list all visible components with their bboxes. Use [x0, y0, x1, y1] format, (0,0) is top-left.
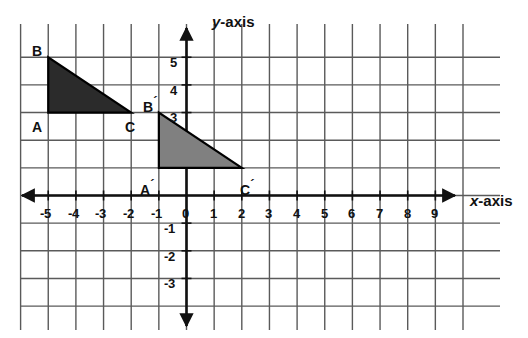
y-axis-tick-label: -3	[164, 277, 175, 290]
y-axis-label-suffix: -axis	[220, 13, 254, 30]
x-axis-tick-label: 0	[182, 207, 189, 220]
vertex-label-b: B	[32, 44, 42, 58]
x-axis-tick-label: 3	[265, 207, 272, 220]
vertex-label-c-prime-text: C	[240, 182, 250, 198]
x-axis-tick-label: 1	[210, 207, 217, 220]
x-axis-tick-label: 2	[238, 207, 245, 220]
vertex-label-a-prime-prime-mark: ´	[150, 177, 154, 192]
coordinate-plane-figure: -5-4-3-2-10123456789543-1-2-3 BACB´A´C´ …	[0, 0, 528, 338]
vertex-label-b-text: B	[32, 43, 42, 59]
x-axis-label: x-axis	[470, 193, 513, 208]
x-axis-tick-label: -5	[40, 207, 51, 220]
x-axis-tick-label: 8	[404, 207, 411, 220]
x-axis-tick-label: 6	[348, 207, 355, 220]
vertex-label-a-text: A	[32, 119, 42, 135]
y-axis-tick-label: -1	[164, 222, 175, 235]
x-axis-tick-label: -3	[95, 207, 106, 220]
vertex-label-b-prime-prime-mark: ´	[153, 94, 157, 109]
y-axis-label: y-axis	[212, 14, 255, 29]
x-axis-tick-label: -2	[123, 207, 134, 220]
vertex-label-a-prime-text: A	[140, 182, 150, 198]
vertex-label-c-prime: C´	[240, 178, 254, 197]
vertex-label-a: A	[32, 120, 42, 134]
y-axis-tick-label: 5	[170, 56, 177, 69]
graph-canvas	[0, 0, 528, 338]
x-axis-tick-label: 4	[293, 207, 300, 220]
x-axis-label-suffix: -axis	[478, 192, 512, 209]
grid-lines	[20, 24, 500, 330]
y-axis-tick-label: 3	[170, 111, 177, 124]
x-axis-tick-label: 9	[431, 207, 438, 220]
vertex-label-c: C	[125, 120, 135, 134]
x-axis-tick-label: -1	[151, 207, 162, 220]
vertex-label-c-prime-prime-mark: ´	[250, 177, 254, 192]
axes-group	[22, 28, 455, 326]
vertex-label-b-prime-text: B	[143, 99, 153, 115]
vertex-label-b-prime: B´	[143, 95, 157, 114]
vertex-label-a-prime: A´	[140, 178, 154, 197]
x-axis-tick-label: -4	[68, 207, 79, 220]
y-axis-tick-label: 4	[170, 84, 177, 97]
vertex-label-c-text: C	[125, 119, 135, 135]
y-axis-tick-label: -2	[164, 250, 175, 263]
x-axis-tick-label: 7	[376, 207, 383, 220]
x-axis-tick-label: 5	[321, 207, 328, 220]
